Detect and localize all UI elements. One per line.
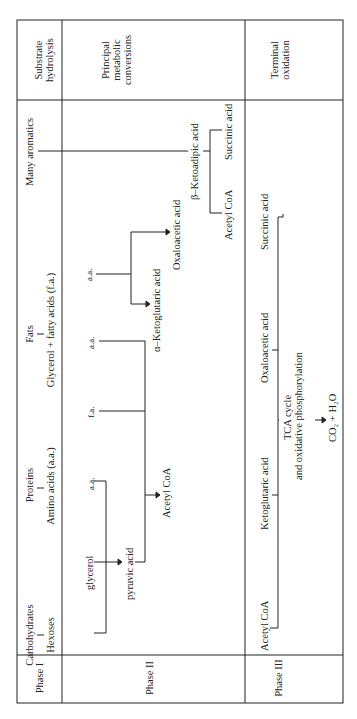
ketoglutaric-label: Ketoglutaric acid <box>259 457 270 530</box>
succinic-acid-phase3-label: Succinic acid <box>259 194 270 250</box>
row-header-line: Terminal <box>269 25 280 95</box>
proteins-label: Proteins <box>24 450 35 520</box>
amino-acids-label: Amino acids (a.a.) <box>45 436 56 536</box>
row-header-line: oxidation <box>280 25 291 95</box>
aa-label-1: a.a. <box>86 478 97 491</box>
acetyl-coa-aromatic-label: Acetyl CoA <box>223 190 234 240</box>
alpha-ketoglutaric-label: α–Ketoglutaric acid <box>151 269 162 352</box>
carbohydrates-label: Carbohydrates <box>24 590 35 680</box>
row-header-line: metabolic <box>111 25 122 95</box>
oxaloacetic-phase2-label: Oxaloacetic acid <box>171 200 182 270</box>
glycerol-fatty-acids-label: Glycerol + fatty acids (f.a.) <box>45 260 56 400</box>
many-aromatics-label: Many aromatics <box>24 109 35 195</box>
acetyl-coa-phase3-label: Acetyl CoA <box>259 601 270 651</box>
oxaloacetic-phase3-label: Oxaloacetic acid <box>259 313 270 383</box>
phase-2-label: Phase II <box>144 656 155 700</box>
beta-ketoadipic-label: β–Ketoadipic acid <box>189 123 200 200</box>
aa-label-2: a.a. <box>86 337 97 350</box>
row-header-terminal-oxidation: Terminal oxidation <box>269 25 291 95</box>
row-header-line: conversions <box>122 25 133 95</box>
row-header-principal-conversions: Principal metabolic conversions <box>100 25 133 95</box>
row-header-line: Principal <box>100 25 111 95</box>
row-header-line: hydrolysis <box>44 25 55 95</box>
aa-label-3: a.a. <box>84 269 95 282</box>
tca-line-1: TCA cycle <box>282 355 293 480</box>
fa-label: f.a. <box>86 407 97 419</box>
acetyl-coa-phase2-label: Acetyl CoA <box>161 468 172 518</box>
succinic-acid-phase2-label: Succinic acid <box>223 104 234 160</box>
tca-line-2: and oxidative phosphorylation <box>293 355 304 480</box>
hexoses-label: Hexoses <box>45 600 56 670</box>
metabolic-phases-diagram: Substrate hydrolysis Principal metabolic… <box>0 0 357 719</box>
phase-3-label: Phase III <box>273 656 284 700</box>
pyruvic-acid-label: pyruvic acid <box>124 548 135 600</box>
row-header-line: Substrate <box>33 25 44 95</box>
tca-cycle-label: TCA cycle and oxidative phosphorylation <box>282 355 304 480</box>
row-header-substrate-hydrolysis: Substrate hydrolysis <box>33 25 55 95</box>
glycerol-label: glycerol <box>84 556 95 590</box>
fats-label: Fats <box>24 306 35 362</box>
phase-1-label: Phase I <box>34 656 45 700</box>
co2-h2o-label: CO₂ + H₂O <box>327 394 338 442</box>
